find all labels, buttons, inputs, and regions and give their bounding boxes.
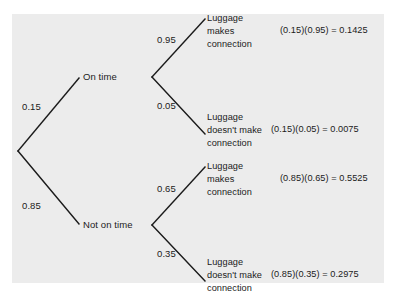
outcome-line: Luggage — [207, 111, 262, 124]
diagram-canvas: 0.15 0.85 On time Not on time 0.95 0.05 … — [0, 0, 396, 297]
outcome-line: connection — [207, 186, 252, 199]
branch-line-ontime-makes — [152, 19, 205, 77]
product-label-ontime-notmakes: (0.15)(0.05) = 0.0075 — [271, 124, 359, 134]
edge-label-p-not-on-time: 0.85 — [22, 200, 41, 211]
outcome-text-ontime-makes: Luggage makes connection — [207, 12, 252, 51]
branch-line-not-on-time — [18, 151, 79, 224]
node-label-on-time: On time — [83, 71, 117, 82]
edge-label-p-on-time: 0.15 — [22, 101, 41, 112]
outcome-line: Luggage — [207, 256, 262, 269]
product-label-ontime-makes: (0.15)(0.95) = 0.1425 — [280, 25, 368, 35]
outcome-line: Luggage — [207, 12, 252, 25]
edge-label-p-notontime-notmakes: 0.35 — [157, 248, 176, 259]
outcome-line: Luggage — [207, 160, 252, 173]
outcome-text-notontime-makes: Luggage makes connection — [207, 160, 252, 199]
node-label-not-on-time: Not on time — [83, 219, 133, 230]
edge-label-p-ontime-notmakes: 0.05 — [157, 100, 176, 111]
outcome-line: connection — [207, 38, 252, 51]
outcome-line: doesn't make — [207, 269, 262, 282]
outcome-text-notontime-notmakes: Luggage doesn't make connection — [207, 256, 262, 295]
product-label-notontime-makes: (0.85)(0.65) = 0.5525 — [280, 173, 368, 183]
outcome-text-ontime-notmakes: Luggage doesn't make connection — [207, 111, 262, 150]
tree-branch-lines — [0, 0, 396, 297]
branch-line-notontime-makes — [152, 167, 205, 225]
outcome-line: makes — [207, 25, 252, 38]
edge-label-p-ontime-makes: 0.95 — [157, 34, 176, 45]
branch-line-on-time — [18, 78, 79, 151]
edge-label-p-notontime-makes: 0.65 — [157, 183, 176, 194]
outcome-line: doesn't make — [207, 124, 262, 137]
product-label-notontime-notmakes: (0.85)(0.35) = 0.2975 — [271, 269, 359, 279]
outcome-line: connection — [207, 137, 262, 150]
outcome-line: connection — [207, 282, 262, 295]
outcome-line: makes — [207, 173, 252, 186]
